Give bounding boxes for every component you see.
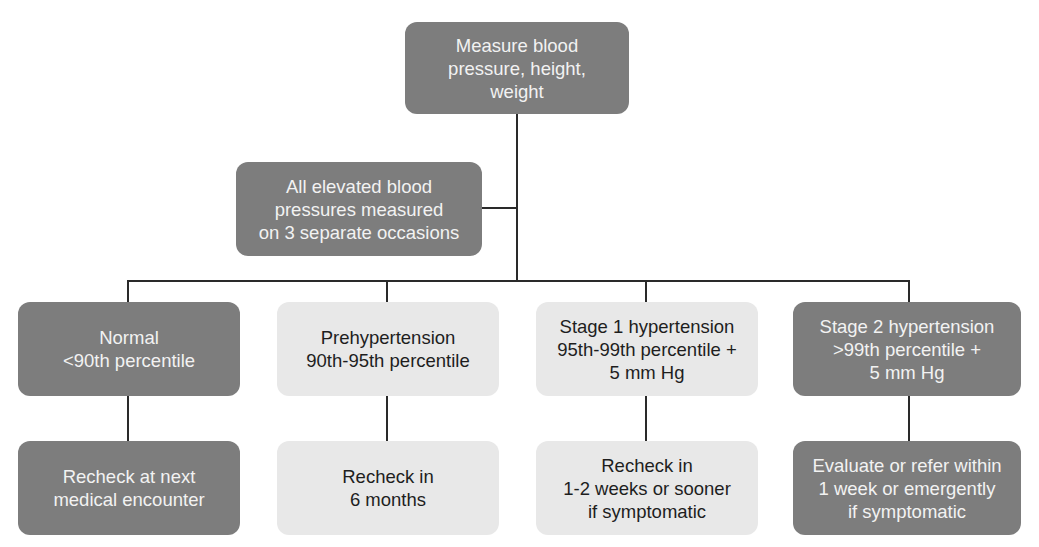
- category-stage1-hypertension: Stage 1 hypertension 95th-99th percentil…: [536, 302, 758, 396]
- action-label: Recheck in 1-2 weeks or sooner if sympto…: [563, 454, 731, 523]
- action-label: Evaluate or refer within 1 week or emerg…: [812, 454, 1001, 523]
- category-stage2-hypertension: Stage 2 hypertension >99th percentile + …: [793, 302, 1021, 396]
- drop-stage1: [645, 280, 647, 302]
- confirm-node-label: All elevated blood pressures measured on…: [259, 175, 460, 244]
- action-stage2-hypertension: Evaluate or refer within 1 week or emerg…: [793, 441, 1021, 535]
- action-stage1-hypertension: Recheck in 1-2 weeks or sooner if sympto…: [536, 441, 758, 535]
- drop-normal: [127, 280, 129, 302]
- link-prehypertension-action: [386, 395, 388, 441]
- category-label: Stage 1 hypertension 95th-99th percentil…: [557, 315, 736, 384]
- link-stage1-action: [645, 395, 647, 441]
- action-normal: Recheck at next medical encounter: [18, 441, 240, 535]
- horizontal-bus: [127, 280, 910, 282]
- category-label: Stage 2 hypertension >99th percentile + …: [820, 315, 995, 384]
- action-prehypertension: Recheck in 6 months: [277, 441, 499, 535]
- action-label: Recheck in 6 months: [342, 465, 434, 511]
- action-label: Recheck at next medical encounter: [53, 465, 204, 511]
- link-stage2-action: [908, 395, 910, 441]
- category-label: Prehypertension 90th-95th percentile: [306, 326, 470, 372]
- root-node-label: Measure blood pressure, height, weight: [448, 34, 586, 103]
- trunk-line: [516, 113, 518, 282]
- category-prehypertension: Prehypertension 90th-95th percentile: [277, 302, 499, 396]
- category-label: Normal <90th percentile: [63, 326, 195, 372]
- confirm-connector: [481, 207, 517, 209]
- drop-stage2: [908, 280, 910, 302]
- link-normal-action: [127, 395, 129, 441]
- confirm-node: All elevated blood pressures measured on…: [236, 162, 482, 256]
- root-node-measure: Measure blood pressure, height, weight: [405, 22, 629, 114]
- drop-prehypertension: [386, 280, 388, 302]
- category-normal: Normal <90th percentile: [18, 302, 240, 396]
